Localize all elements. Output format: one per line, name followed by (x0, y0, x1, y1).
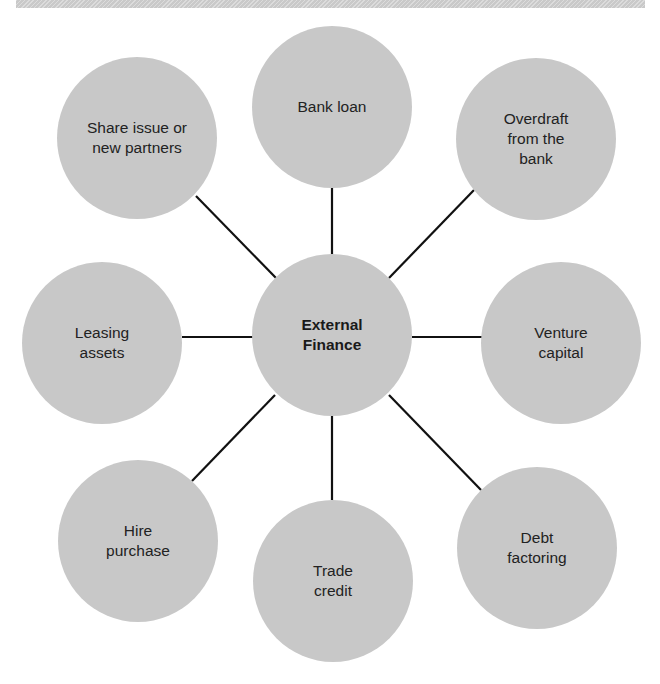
node-hire-purchase: Hire purchase (58, 460, 218, 622)
node-debt-factoring: Debt factoring (457, 467, 617, 629)
node-label: Venture capital (534, 323, 587, 363)
connector-share-issue (196, 196, 277, 279)
node-label: Leasing assets (75, 323, 129, 363)
node-label: Hire purchase (106, 521, 170, 561)
node-overdraft: Overdraft from the bank (456, 58, 616, 220)
header-bar (16, 0, 645, 8)
node-label: Share issue or new partners (87, 118, 187, 158)
node-external-finance: External Finance (252, 254, 412, 416)
node-label: Bank loan (298, 97, 367, 117)
node-bank-loan: Bank loan (252, 26, 412, 188)
node-leasing-assets: Leasing assets (22, 262, 182, 424)
node-label: Trade credit (313, 561, 353, 601)
node-trade-credit: Trade credit (253, 500, 413, 662)
node-label: Overdraft from the bank (504, 109, 569, 169)
hub-label: External Finance (301, 315, 362, 355)
node-venture-capital: Venture capital (481, 262, 641, 424)
connector-debt-factoring (389, 395, 481, 490)
node-share-issue: Share issue or new partners (57, 57, 217, 219)
connector-hire-purchase (192, 395, 275, 481)
node-label: Debt factoring (507, 528, 566, 568)
connector-overdraft (389, 190, 474, 278)
